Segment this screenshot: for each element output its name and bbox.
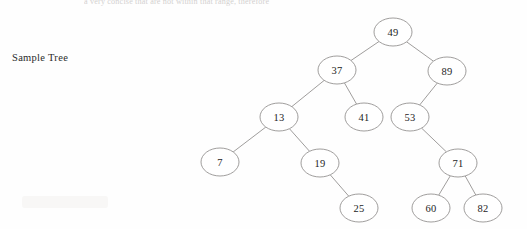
- node-label-19: 19: [315, 158, 326, 169]
- tree-node-13[interactable]: 13: [260, 103, 298, 131]
- tree-edge-13-7: [233, 127, 266, 152]
- tree-node-19[interactable]: 19: [301, 149, 339, 177]
- binary-search-tree-figure: 49378913415371971256082: [0, 0, 527, 229]
- tree-edge-89-53: [420, 83, 438, 105]
- tree-node-49[interactable]: 49: [374, 18, 412, 46]
- tree-edge-13-19: [289, 129, 309, 152]
- document-page: a very concise that are not within that …: [0, 0, 527, 229]
- node-label-89: 89: [442, 66, 453, 77]
- node-label-37: 37: [332, 65, 343, 76]
- tree-node-82[interactable]: 82: [464, 194, 502, 222]
- node-label-53: 53: [405, 112, 416, 123]
- tree-edge-19-25: [330, 175, 349, 196]
- tree-edge-37-13: [292, 80, 324, 106]
- node-label-13: 13: [274, 112, 285, 123]
- tree-node-41[interactable]: 41: [345, 103, 383, 131]
- node-label-82: 82: [478, 203, 489, 214]
- tree-node-53[interactable]: 53: [391, 103, 429, 131]
- tree-edge-71-60: [439, 176, 451, 195]
- tree-edge-71-82: [465, 176, 476, 195]
- tree-edge-49-37: [351, 41, 379, 60]
- tree-node-25[interactable]: 25: [340, 194, 378, 222]
- tree-edge-53-71: [422, 128, 447, 152]
- node-label-41: 41: [359, 112, 370, 123]
- node-label-60: 60: [426, 203, 437, 214]
- tree-node-89[interactable]: 89: [428, 57, 466, 85]
- tree-node-layer: 49378913415371971256082: [201, 18, 502, 222]
- tree-node-60[interactable]: 60: [412, 194, 450, 222]
- tree-edge-49-89: [407, 42, 434, 61]
- tree-node-7[interactable]: 7: [201, 148, 239, 176]
- node-label-25: 25: [354, 203, 365, 214]
- node-label-71: 71: [453, 158, 464, 169]
- tree-node-37[interactable]: 37: [318, 56, 356, 84]
- tree-node-71[interactable]: 71: [439, 149, 477, 177]
- node-label-7: 7: [217, 157, 222, 168]
- tree-edge-37-41: [344, 83, 356, 104]
- node-label-49: 49: [388, 27, 399, 38]
